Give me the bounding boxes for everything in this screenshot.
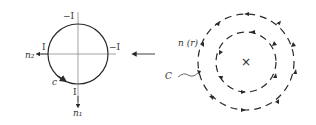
label-bottom: I [73,87,77,97]
label-axis-y: n₁ [73,108,82,118]
left-panel: −I −I I I n₂ n₁ c [25,11,121,118]
label-left: I [42,42,46,52]
label-curve-C: C [165,71,172,81]
right-panel: × C n (r) [165,12,297,112]
figure: −I −I I I n₂ n₁ c [0,0,316,125]
label-curve: c [52,77,57,87]
curve-pointer [178,73,198,77]
label-field: n (r) [178,38,198,48]
label-axis-x: n₂ [25,50,35,60]
center-cross-icon: × [241,55,251,69]
label-right: −I [109,42,121,52]
label-top: −I [63,11,75,21]
